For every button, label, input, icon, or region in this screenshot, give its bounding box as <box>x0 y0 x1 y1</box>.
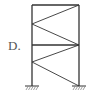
brace-3 <box>32 45 79 62</box>
right-fixed-support <box>72 86 86 90</box>
frame-diagram <box>0 0 91 96</box>
left-fixed-support <box>25 86 39 90</box>
brace-2 <box>32 24 79 45</box>
brace-1 <box>32 5 79 24</box>
brace-4 <box>32 62 79 86</box>
